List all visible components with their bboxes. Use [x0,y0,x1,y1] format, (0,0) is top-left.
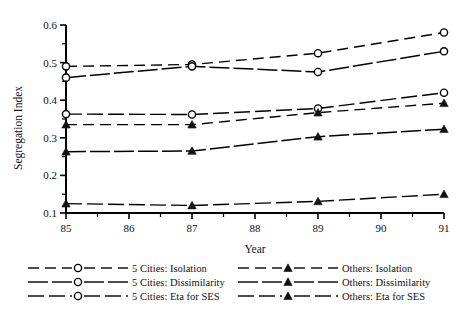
series-line [66,129,444,152]
y-tick-label: 0.1 [43,207,57,219]
data-point-triangle-marker [284,264,292,272]
x-tick-label: 89 [313,222,325,234]
data-point-circle-marker [440,89,447,96]
x-tick-label: 91 [439,222,450,234]
legend-item: 5 Cities: Isolation [28,263,207,274]
x-tick-label: 87 [187,222,199,234]
legend-label: Others: Dissimilarity [342,277,431,288]
legend-label: 5 Cities: Dissimilarity [132,277,226,288]
data-point-circle-marker [440,48,447,55]
y-axis: 0.10.20.30.40.50.6 [43,19,66,219]
data-point-circle-marker [314,50,321,57]
data-point-circle-marker [74,292,81,299]
chart-legend: 5 Cities: Isolation5 Cities: Dissimilari… [28,263,431,302]
legend-label: Others: Eta for SES [342,291,425,302]
legend-item: 5 Cities: Eta for SES [28,291,220,302]
legend-item: Others: Dissimilarity [238,277,431,288]
x-tick-label: 86 [124,222,136,234]
data-point-circle-marker [62,63,69,70]
legend-label: 5 Cities: Isolation [132,263,207,274]
series-5-cities-eta-for-ses [62,89,447,118]
data-point-triangle-marker [440,190,448,198]
series-5-cities-isolation [62,29,447,70]
data-point-triangle-marker [284,292,292,300]
data-point-circle-marker [314,68,321,75]
series-others-isolation [62,99,448,128]
x-tick-label: 90 [376,222,388,234]
legend-item: 5 Cities: Dissimilarity [28,277,226,288]
legend-label: Others: Isolation [342,263,413,274]
data-point-circle-marker [440,29,447,36]
y-axis-title: Segregation Index [12,86,25,170]
series-line [66,51,444,77]
y-tick-label: 0.3 [43,132,57,144]
data-point-circle-marker [62,111,69,118]
series-others-dissimilarity [62,125,448,155]
data-point-circle-marker [62,74,69,81]
y-tick-label: 0.2 [43,169,57,181]
data-point-circle-marker [74,278,81,285]
x-axis-title: Year [244,243,265,255]
x-tick-label: 85 [61,222,73,234]
x-tick-label: 88 [250,222,262,234]
series-others-eta-for-ses [62,190,448,209]
data-point-circle-marker [188,111,195,118]
segregation-index-line-chart: Segregation Index 0.10.20.30.40.50.6 858… [0,0,462,314]
y-tick-label: 0.5 [43,57,57,69]
data-point-circle-marker [188,63,195,70]
series-line [66,194,444,205]
legend-label: 5 Cities: Eta for SES [132,291,220,302]
series-line [66,93,444,115]
x-axis: 85868788899091 [61,213,450,234]
legend-item: Others: Eta for SES [238,291,425,302]
y-tick-label: 0.4 [43,94,57,106]
legend-item: Others: Isolation [238,263,413,274]
chart-figure: Segregation Index 0.10.20.30.40.50.6 858… [0,0,462,314]
series-layer [62,29,448,209]
y-tick-label: 0.6 [43,19,57,31]
series-5-cities-dissimilarity [62,48,447,82]
data-point-triangle-marker [284,278,292,286]
data-point-circle-marker [74,264,81,271]
